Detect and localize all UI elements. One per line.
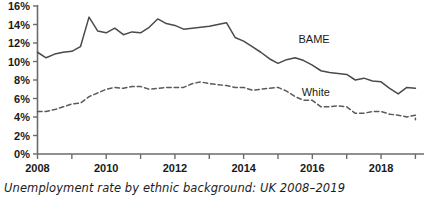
- x-tick-label: 2008: [25, 162, 49, 174]
- unemployment-line-chart: 0%2%4%6%8%10%12%14%16% 20082010201220142…: [0, 0, 425, 203]
- series-line-white: [38, 82, 416, 120]
- x-tick-label: 2014: [231, 162, 256, 174]
- y-tick-label: 6%: [14, 93, 30, 105]
- y-tick-label: 4%: [14, 111, 30, 123]
- y-tick-label: 16%: [8, 0, 30, 12]
- y-tick-label: 2%: [14, 130, 30, 142]
- data-series-group: [38, 17, 416, 120]
- x-tick-label: 2016: [300, 162, 324, 174]
- y-tick-label: 8%: [14, 74, 30, 86]
- series-label-bame: BAME: [298, 33, 329, 45]
- x-tick-label: 2012: [163, 162, 187, 174]
- series-line-bame: [38, 17, 416, 94]
- y-tick-label: 12%: [8, 37, 30, 49]
- chart-figure: 0%2%4%6%8%10%12%14%16% 20082010201220142…: [0, 0, 425, 203]
- y-tick-label: 0%: [14, 148, 30, 160]
- y-axis: 0%2%4%6%8%10%12%14%16%: [8, 0, 38, 160]
- x-tick-label: 2010: [94, 162, 118, 174]
- y-tick-label: 14%: [8, 19, 30, 31]
- x-axis: 200820102012201420162018: [25, 154, 424, 174]
- x-tick-label: 2018: [369, 162, 393, 174]
- series-labels: BAMEWhite: [298, 33, 329, 98]
- series-label-white: White: [302, 86, 330, 98]
- y-tick-label: 10%: [8, 56, 30, 68]
- figure-caption: Unemployment rate by ethnic background: …: [4, 181, 345, 195]
